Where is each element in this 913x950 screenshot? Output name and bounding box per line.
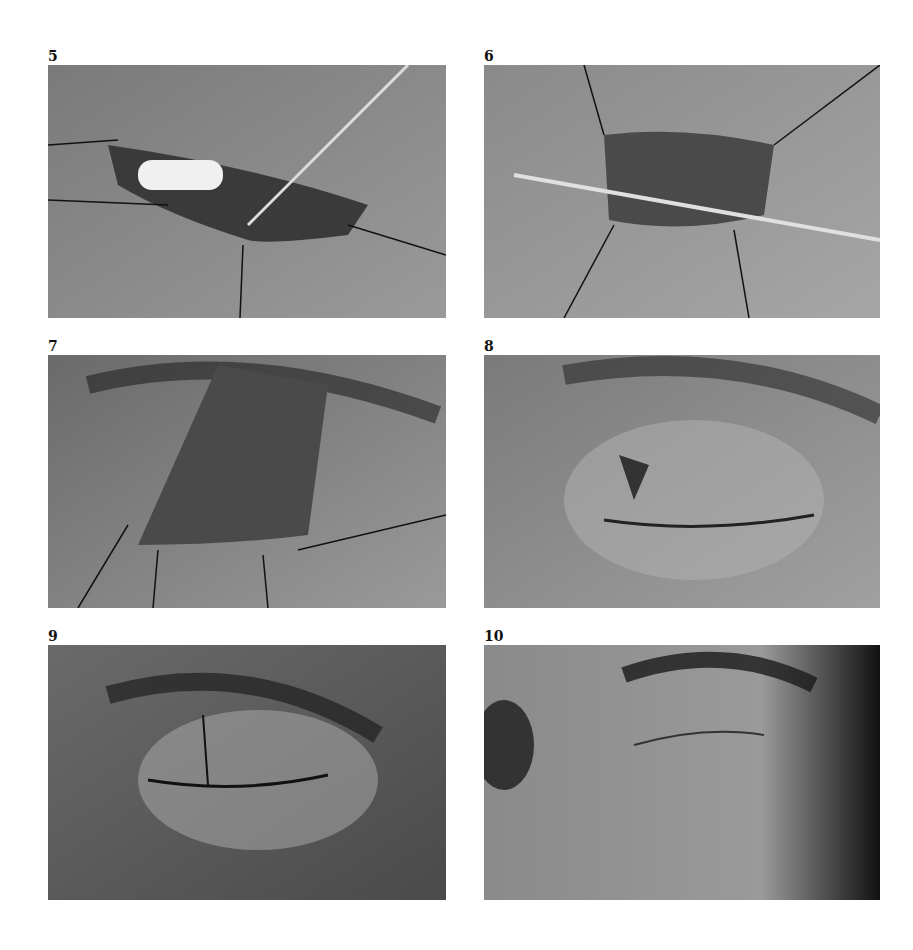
panel-label-6: 6 — [484, 49, 494, 63]
surgical-photo-5 — [48, 65, 446, 318]
panel-label-9: 9 — [48, 629, 58, 643]
surgical-photo-8 — [484, 355, 880, 608]
surgical-photo-6 — [484, 65, 880, 318]
panel-label-8: 8 — [484, 339, 494, 353]
panel-label-5: 5 — [48, 49, 58, 63]
panel-label-10: 10 — [484, 629, 503, 643]
postoperative-photo-10 — [484, 645, 880, 900]
panel-label-7: 7 — [48, 339, 58, 353]
surgical-photo-9 — [48, 645, 446, 900]
surgical-photo-7 — [48, 355, 446, 608]
